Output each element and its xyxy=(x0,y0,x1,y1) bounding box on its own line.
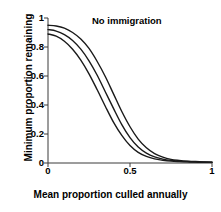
chart-figure: Minimum proportion remaining 1 0.8 0.6 0… xyxy=(0,0,221,212)
data-curves xyxy=(48,25,212,162)
plot-area xyxy=(0,0,221,212)
y-axis-tick-marks xyxy=(44,18,48,163)
curve-upper xyxy=(48,25,212,162)
x-axis-tick-marks xyxy=(48,163,212,167)
curve-lower xyxy=(48,34,212,162)
